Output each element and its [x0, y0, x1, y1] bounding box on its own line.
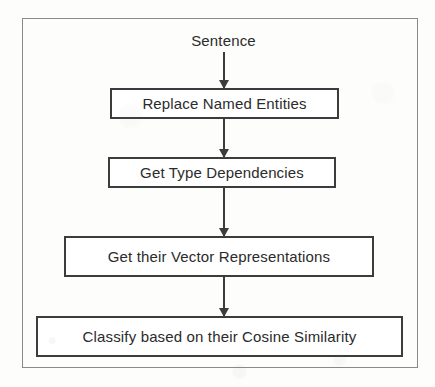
flow-node-classify-based-on-cosine-similarity: Classify based on their Cosine Similarit…	[36, 316, 403, 357]
flow-node-replace-named-entities-label: Replace Named Entities	[142, 96, 306, 111]
flow-node-classify-based-on-cosine-similarity-label: Classify based on their Cosine Similarit…	[83, 329, 357, 344]
flow-node-get-type-dependencies: Get Type Dependencies	[108, 157, 336, 188]
flow-start-label-text: Sentence	[191, 33, 256, 48]
flow-node-get-their-vector-representations-label: Get their Vector Representations	[108, 249, 330, 264]
arrow-get-type-dependencies-to-get-vector-representations	[223, 188, 225, 236]
flow-start-label: Sentence	[0, 32, 435, 49]
flowchart-page: Sentence Replace Named Entities Get Type…	[0, 0, 435, 387]
flow-node-get-their-vector-representations: Get their Vector Representations	[64, 236, 374, 277]
arrow-replace-named-entities-to-get-type-dependencies	[223, 119, 225, 157]
flow-node-get-type-dependencies-label: Get Type Dependencies	[140, 165, 304, 180]
arrow-sentence-to-replace-named-entities	[223, 52, 225, 88]
arrow-get-vector-representations-to-classify	[223, 277, 225, 316]
flow-node-replace-named-entities: Replace Named Entities	[110, 88, 339, 119]
